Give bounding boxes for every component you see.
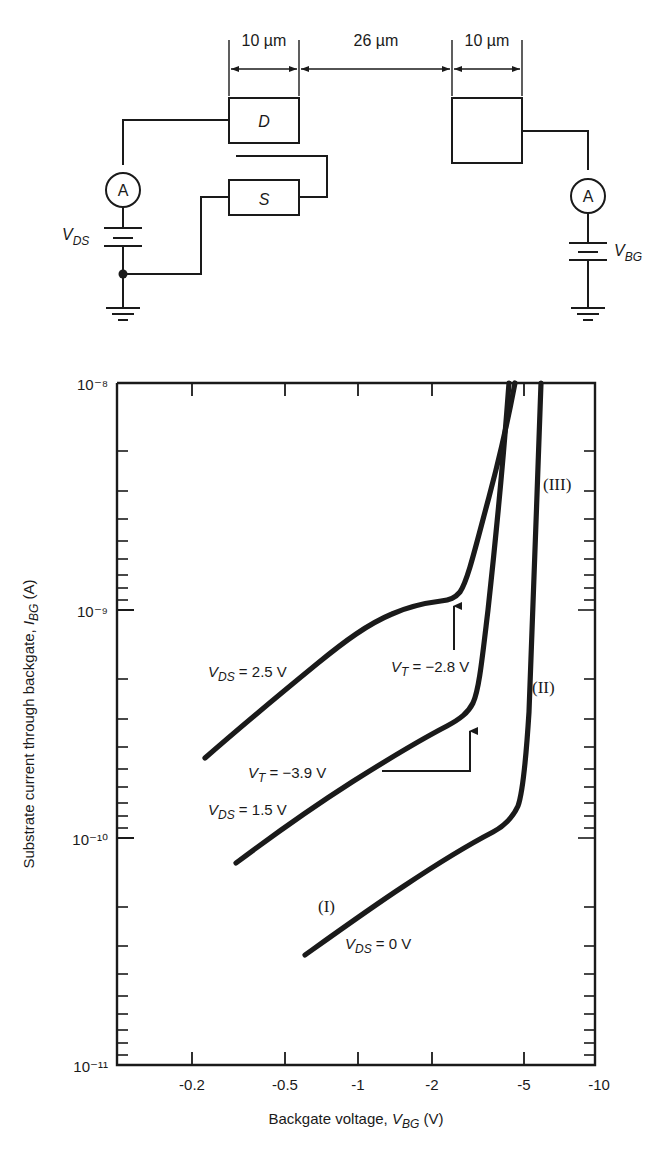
ground-symbol-left	[106, 308, 140, 320]
vbg-source-label: VBG	[614, 242, 642, 264]
ammeter-left-label: A	[118, 182, 129, 199]
x-axis-title: Backgate voltage, VBG (V)	[269, 1110, 444, 1131]
backgate-wire	[522, 131, 588, 170]
vds-source-label: VDS	[62, 226, 89, 248]
x-tick-label: -0.5	[272, 1076, 298, 1093]
vds-battery-symbol	[104, 228, 142, 274]
backgate-contact-box	[452, 98, 522, 163]
dimension-label-middle: 26 µm	[354, 32, 399, 49]
curve-label-vds-2p5: VDS = 2.5 V	[208, 663, 287, 684]
curve-label-vds-1p5: VDS = 1.5 V	[208, 801, 287, 822]
x-tick-label: -1	[351, 1076, 364, 1093]
y-tick-label: 10⁻¹⁰	[72, 831, 108, 848]
dimension-label-right: 10 µm	[465, 32, 510, 49]
figure-root: 10 µm 26 µm 10 µm D S A VDS	[0, 0, 654, 1156]
source-return-wire	[123, 197, 229, 274]
x-tick-label: -2	[425, 1076, 438, 1093]
vt-lower-annotation: VT = −3.9 V	[248, 764, 326, 785]
vt-upper-annotation: VT = −2.8 V	[391, 658, 469, 679]
guard-ring-wire	[236, 156, 327, 197]
y-axis-right-ticks	[578, 451, 595, 1055]
ammeter-right-label: A	[583, 188, 594, 205]
y-tick-label: 10⁻⁸	[77, 376, 108, 393]
y-axis-major-ticks	[117, 383, 134, 1065]
dimension-label-left: 10 µm	[242, 32, 287, 49]
ground-symbol-right	[571, 308, 605, 320]
curve-series-iii	[205, 383, 515, 758]
x-tick-label: -5	[517, 1076, 530, 1093]
y-axis-minor-ticks	[117, 451, 128, 1055]
x-axis-tick-labels: -0.2 -0.5 -1 -2 -5 -10	[179, 1076, 610, 1093]
y-tick-label: 10⁻⁹	[77, 603, 108, 620]
vbg-battery-symbol	[569, 243, 607, 308]
curve-roman-label-ii: (II)	[532, 678, 555, 697]
curve-label-vds-0: VDS = 0 V	[345, 935, 411, 956]
y-tick-label: 10⁻¹¹	[73, 1058, 108, 1075]
curve-roman-label-i: (I)	[318, 897, 335, 916]
y-axis-tick-labels: 10⁻⁸ 10⁻⁹ 10⁻¹⁰ 10⁻¹¹	[72, 376, 108, 1075]
circuit-diagram: 10 µm 26 µm 10 µm D S A VDS	[62, 32, 642, 320]
drain-label: D	[258, 113, 270, 130]
plot-frame	[117, 383, 595, 1065]
curve-roman-label-iii: (III)	[543, 475, 571, 494]
source-label: S	[259, 191, 270, 208]
chart: 10⁻⁸ 10⁻⁹ 10⁻¹⁰ 10⁻¹¹ -0.2 -0.5 -1 -2 -5…	[20, 376, 610, 1131]
x-tick-label: -0.2	[179, 1076, 205, 1093]
y-axis-title: Substrate current through backgate, IBG …	[20, 579, 41, 868]
x-tick-label: -10	[588, 1076, 610, 1093]
drain-wire	[123, 120, 229, 165]
